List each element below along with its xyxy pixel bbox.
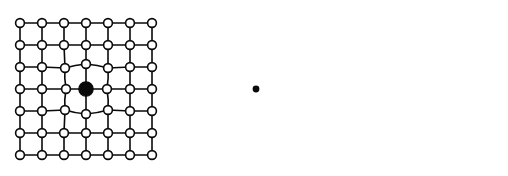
mesh-node <box>103 85 112 94</box>
mesh-node <box>62 85 71 94</box>
mesh-node <box>82 110 91 119</box>
mesh-node <box>126 19 135 28</box>
mesh-node <box>38 19 47 28</box>
mesh-node <box>148 129 157 138</box>
mesh-node <box>104 64 113 73</box>
mesh-node <box>126 41 135 50</box>
mesh-node <box>126 63 135 72</box>
mesh-node <box>104 106 113 115</box>
mesh-node <box>60 129 69 138</box>
mesh-node <box>126 151 135 160</box>
mesh-panel-1 <box>0 0 170 176</box>
mesh-node <box>60 19 69 28</box>
mesh-node <box>104 41 113 50</box>
mesh-node-highlighted <box>79 82 93 96</box>
mesh-node <box>16 129 25 138</box>
mesh-panel-2 <box>168 0 338 176</box>
mesh-marker-group <box>79 82 93 96</box>
mesh-node <box>60 151 69 160</box>
mesh-diagram-1 <box>0 0 170 176</box>
mesh-node <box>82 151 91 160</box>
mesh-node <box>148 63 157 72</box>
mesh-node <box>104 19 113 28</box>
mesh-node <box>148 151 157 160</box>
mesh-panel-3 <box>338 0 508 176</box>
mesh-node <box>148 19 157 28</box>
mesh-seed-point <box>253 86 260 93</box>
mesh-refinement-figure <box>0 0 508 176</box>
mesh-node <box>16 41 25 50</box>
mesh-node <box>60 41 69 50</box>
mesh-node <box>38 85 47 94</box>
mesh-node <box>61 106 70 115</box>
mesh-node <box>38 151 47 160</box>
mesh-node <box>38 107 47 116</box>
mesh-node <box>61 64 70 73</box>
mesh-node <box>16 19 25 28</box>
mesh-node <box>148 107 157 116</box>
mesh-node <box>38 63 47 72</box>
mesh-node <box>16 151 25 160</box>
mesh-node <box>16 107 25 116</box>
mesh-node <box>126 85 135 94</box>
mesh-node <box>82 41 91 50</box>
mesh-node <box>148 41 157 50</box>
mesh-node <box>38 129 47 138</box>
mesh-diagram-3 <box>338 0 508 176</box>
mesh-node <box>126 107 135 116</box>
mesh-node <box>126 129 135 138</box>
mesh-marker-group <box>253 86 260 93</box>
mesh-node <box>82 129 91 138</box>
mesh-diagram-2 <box>168 0 338 176</box>
mesh-node <box>38 41 47 50</box>
mesh-node <box>16 63 25 72</box>
mesh-node <box>104 151 113 160</box>
mesh-node <box>16 85 25 94</box>
mesh-node <box>82 19 91 28</box>
mesh-node <box>148 85 157 94</box>
mesh-node <box>104 129 113 138</box>
mesh-node <box>82 60 91 69</box>
